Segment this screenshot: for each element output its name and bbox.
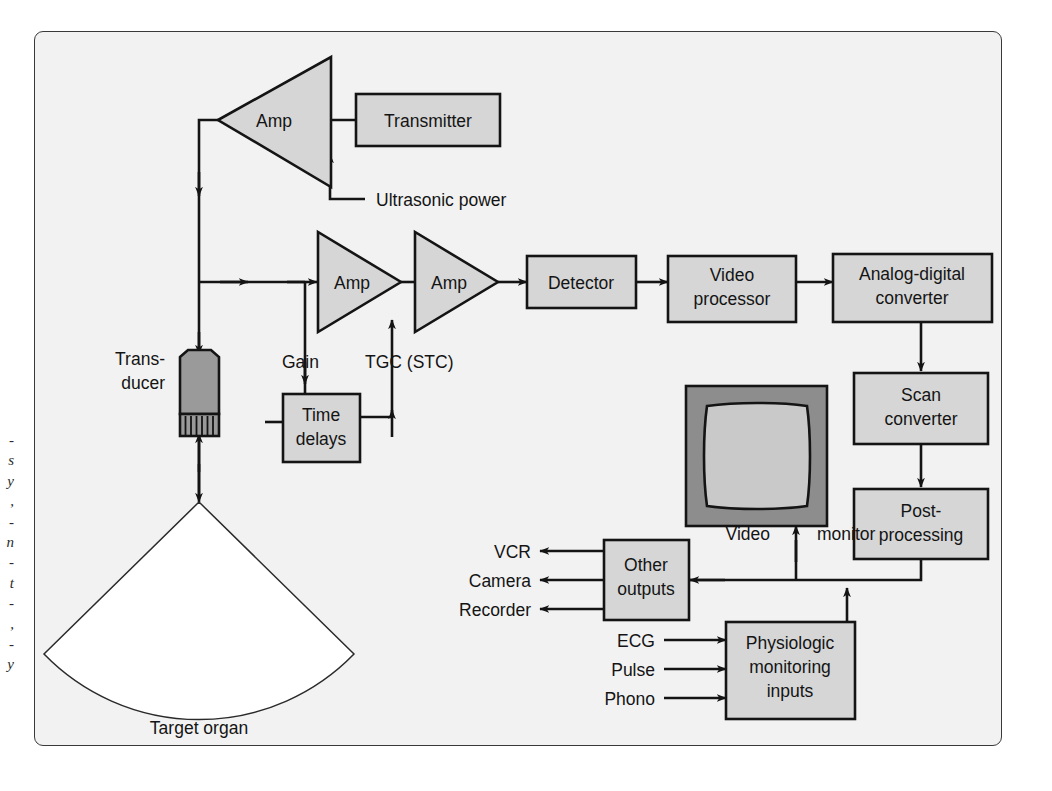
block-label-line2: delays	[296, 429, 347, 449]
block-label-line1: Analog-digital	[859, 264, 965, 284]
amp-preamp: Amp	[318, 232, 401, 332]
amp-label: Amp	[334, 273, 370, 293]
wire-ultrasonic-power-lead	[330, 192, 365, 199]
block-label-line2: processing	[879, 525, 964, 545]
crt-monitor-icon	[686, 386, 827, 526]
label-monitor: monitor	[817, 524, 876, 544]
amp-label: Amp	[256, 111, 292, 131]
block-label-line2: converter	[876, 288, 949, 308]
block-video-processor: Video processor	[668, 256, 796, 322]
block-label: Detector	[548, 273, 614, 293]
label-video: Video	[726, 524, 770, 544]
block-other-outputs: Other outputs	[604, 540, 689, 620]
amp-transmit: Amp	[218, 57, 331, 187]
block-label-line2: monitoring	[749, 657, 831, 677]
wire-post-to-output-bus	[687, 559, 921, 580]
amp-label: Amp	[431, 273, 467, 293]
transducer-probe-icon	[180, 350, 219, 436]
label-output-recorder: Recorder	[459, 600, 531, 620]
block-transmitter: Transmitter	[356, 94, 500, 146]
block-label-line1: Time	[302, 405, 340, 425]
block-diagram-svg: Amp Amp Amp Transmitter Detector Vi	[35, 32, 1000, 744]
block-label-line1: Other	[624, 555, 668, 575]
label-transducer-line2: ducer	[121, 373, 165, 393]
label-input-phono: Phono	[604, 689, 655, 709]
label-input-ecg: ECG	[617, 631, 655, 651]
block-physiologic-monitoring-inputs: Physiologic monitoring inputs	[726, 622, 855, 719]
label-tgc: TGC (STC)	[365, 352, 453, 372]
block-time-delays: Time delays	[283, 394, 360, 462]
figure-page: - s y , - n - t - , - y	[0, 0, 1052, 791]
block-analog-digital-converter: Analog-digital converter	[833, 254, 992, 322]
diagram-frame: Amp Amp Amp Transmitter Detector Vi	[34, 31, 1002, 746]
block-label-line3: inputs	[767, 681, 814, 701]
block-label-line1: Video	[710, 265, 754, 285]
label-output-camera: Camera	[469, 571, 532, 591]
label-gain: Gain	[282, 352, 319, 372]
wire-amp1-to-bus	[199, 120, 218, 352]
label-input-pulse: Pulse	[611, 660, 655, 680]
block-label-line1: Scan	[901, 385, 941, 405]
block-label-line1: Physiologic	[746, 633, 835, 653]
amp-tgc: Amp	[415, 232, 498, 332]
block-label-line2: outputs	[617, 579, 675, 599]
block-label-line1: Post-	[901, 501, 942, 521]
label-target-organ: Target organ	[150, 718, 248, 738]
ultrasound-sector-scan-icon	[44, 502, 354, 720]
block-label-line2: converter	[885, 409, 958, 429]
block-label-line2: processor	[694, 289, 771, 309]
block-label: Transmitter	[384, 111, 472, 131]
block-detector: Detector	[527, 256, 636, 308]
label-transducer-line1: Trans-	[115, 349, 165, 369]
label-ultrasonic-power: Ultrasonic power	[376, 190, 506, 210]
label-output-vcr: VCR	[494, 542, 531, 562]
caption-remnant-text: - s y , - n - t - , - y	[0, 430, 14, 675]
block-scan-converter: Scan converter	[854, 373, 988, 444]
